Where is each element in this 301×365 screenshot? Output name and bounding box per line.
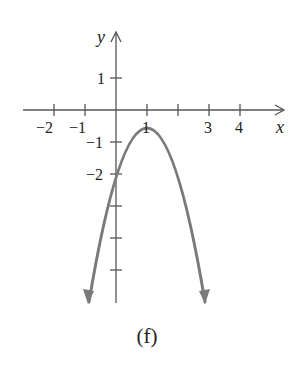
x-tick-label: −1	[69, 119, 86, 136]
y-axis-label: y	[95, 27, 105, 47]
curve-right-arrow-icon	[199, 289, 210, 304]
parabola-curve	[89, 128, 205, 302]
y-tick-label: −2	[86, 166, 103, 183]
curve-left-arrow-icon	[83, 289, 94, 304]
x-tick-label: −2	[36, 119, 53, 136]
graph-figure: y x −2 −1 1 3 4 1 −1 −2 (f)	[0, 0, 301, 365]
figure-caption: (f)	[137, 324, 158, 348]
x-tick-label: 4	[235, 119, 243, 136]
x-axis-label: x	[275, 117, 284, 137]
x-tick-label: 1	[142, 119, 150, 136]
y-tick-label: 1	[97, 70, 105, 87]
y-tick-label: −1	[86, 134, 103, 151]
axes	[23, 32, 284, 303]
x-tick-label: 3	[204, 119, 212, 136]
